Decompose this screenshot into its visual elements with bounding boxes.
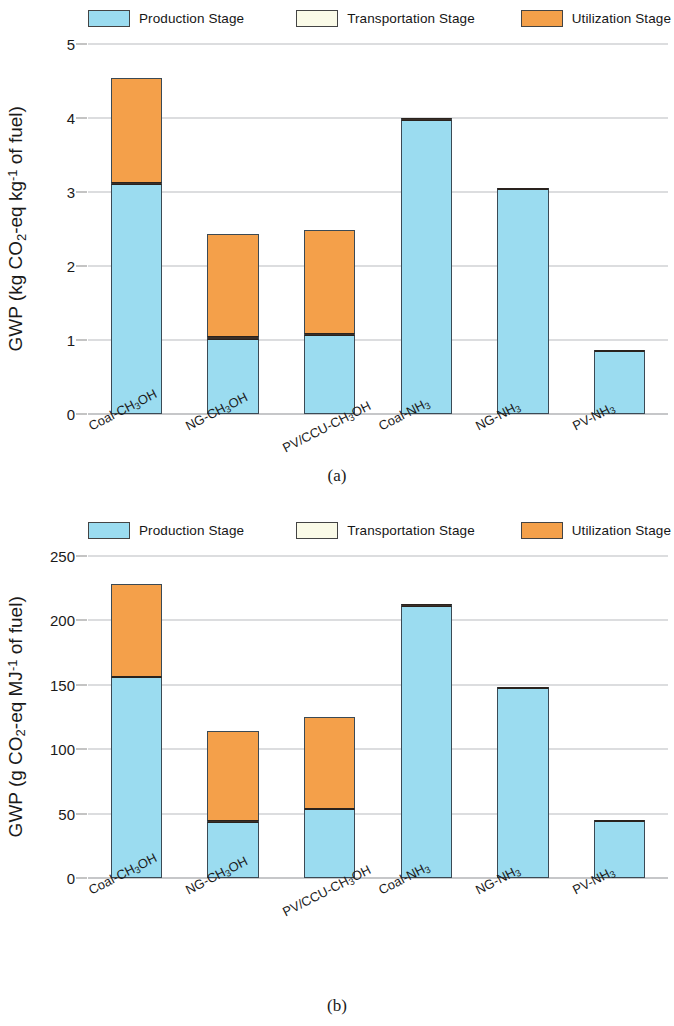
y-tick-label: 200	[50, 612, 75, 629]
bar-pv-ccu-ch3oh	[304, 718, 355, 878]
bar-segment-transportation	[111, 676, 162, 679]
y-tick-label: 0	[67, 870, 75, 887]
bar-coal-ch3oh	[111, 584, 162, 878]
y-tick-mark	[76, 684, 87, 685]
bar-segment-transportation	[594, 820, 645, 822]
bar-ng-ch3oh	[207, 731, 258, 878]
legend-swatch-production-a	[88, 10, 130, 27]
legend-b: Production Stage Transportation Stage Ut…	[0, 518, 674, 542]
y-tick-label: 3	[67, 184, 75, 201]
y-tick-label: 100	[50, 741, 75, 758]
bar-ng-nh3	[497, 687, 548, 878]
y-tick-mark	[76, 266, 87, 267]
bar-segment-transportation	[207, 336, 258, 340]
caption-b: (b)	[0, 996, 674, 1016]
y-tick-label: 0	[67, 406, 75, 423]
legend-a: Production Stage Transportation Stage Ut…	[0, 6, 674, 30]
gridline	[88, 620, 668, 621]
bar-segment-transportation	[497, 188, 548, 190]
bar-segment-transportation	[111, 182, 162, 185]
y-tick-label: 50	[58, 805, 75, 822]
plot-area-a: GWP (kg CO2-eq kg-1 of fuel) 012345	[0, 44, 674, 414]
gridline	[88, 749, 668, 750]
bar-coal-nh3	[401, 604, 452, 878]
legend-label-utilization-a: Utilization Stage	[572, 11, 671, 26]
bar-segment-utilization	[207, 234, 258, 336]
gridline	[88, 556, 668, 557]
gridline	[88, 340, 668, 341]
bar-segment-production	[401, 121, 452, 414]
bar-ng-nh3	[497, 188, 548, 414]
bar-segment-production	[497, 689, 548, 878]
y-tick-mark	[76, 620, 87, 621]
y-tick-label: 2	[67, 258, 75, 275]
bar-segment-production	[497, 190, 548, 414]
bar-segment-production	[111, 678, 162, 878]
y-tick-label: 250	[50, 548, 75, 565]
y-tick-mark	[76, 556, 87, 557]
chart-panel-b: Production Stage Transportation Stage Ut…	[0, 512, 674, 1026]
y-tick-mark	[76, 118, 87, 119]
y-tick-mark	[76, 340, 87, 341]
legend-label-transportation-b: Transportation Stage	[347, 523, 475, 538]
bar-segment-transportation	[207, 820, 258, 823]
gridline	[88, 192, 668, 193]
y-tick-mark	[76, 749, 87, 750]
figure-root: Production Stage Transportation Stage Ut…	[0, 0, 674, 1026]
y-tick-label: 5	[67, 36, 75, 53]
y-tick-mark	[76, 44, 87, 45]
plot-area-b: GWP (g CO2-eq MJ-1 of fuel) 050100150200…	[0, 556, 674, 878]
legend-item-utilization-b: Utilization Stage	[521, 522, 671, 539]
y-tick-mark	[76, 813, 87, 814]
bar-segment-transportation	[304, 333, 355, 335]
legend-label-transportation-a: Transportation Stage	[347, 11, 475, 26]
y-tick-mark	[76, 192, 87, 193]
legend-item-production-b: Production Stage	[88, 522, 244, 539]
y-axis-label-a: GWP (kg CO2-eq kg-1 of fuel)	[0, 44, 34, 414]
gridline	[88, 44, 668, 45]
caption-a: (a)	[0, 466, 674, 486]
bar-segment-utilization	[207, 731, 258, 821]
bar-segment-transportation	[401, 604, 452, 607]
bar-ng-ch3oh	[207, 234, 258, 414]
bar-segment-utilization	[111, 584, 162, 675]
legend-label-utilization-b: Utilization Stage	[572, 523, 671, 538]
bar-pv-ccu-ch3oh	[304, 230, 355, 414]
bar-segment-utilization	[304, 717, 355, 807]
y-tick-mark	[76, 878, 87, 879]
gridline	[88, 266, 668, 267]
axis-area-a: 012345	[88, 44, 668, 414]
y-tick-label: 1	[67, 332, 75, 349]
gridline	[88, 684, 668, 685]
bar-segment-transportation	[304, 808, 355, 810]
bar-coal-ch3oh	[111, 78, 162, 414]
gridline	[88, 118, 668, 119]
bar-segment-utilization	[304, 230, 355, 334]
legend-swatch-production-b	[88, 522, 130, 539]
chart-panel-a: Production Stage Transportation Stage Ut…	[0, 0, 674, 505]
y-tick-label: 150	[50, 676, 75, 693]
legend-label-production-a: Production Stage	[139, 11, 244, 26]
gridline	[88, 813, 668, 814]
y-tick-label: 4	[67, 110, 75, 127]
bar-segment-production	[304, 336, 355, 414]
axis-area-b: 050100150200250	[88, 556, 668, 878]
legend-label-production-b: Production Stage	[139, 523, 244, 538]
bar-segment-transportation	[401, 118, 452, 121]
legend-item-transportation-b: Transportation Stage	[296, 522, 475, 539]
legend-item-transportation-a: Transportation Stage	[296, 10, 475, 27]
bar-segment-transportation	[594, 350, 645, 352]
bar-segment-production	[111, 185, 162, 414]
y-axis-label-b: GWP (g CO2-eq MJ-1 of fuel)	[0, 556, 34, 878]
bar-segment-transportation	[497, 687, 548, 689]
x-axis-labels-b: Coal-CH3OHNG-CH3OHPV/CCU-CH3OHCoal-NH3NG…	[88, 882, 668, 946]
bar-segment-production	[401, 607, 452, 878]
legend-swatch-utilization-a	[521, 10, 563, 27]
legend-swatch-utilization-b	[521, 522, 563, 539]
legend-swatch-transportation-b	[296, 522, 338, 539]
legend-swatch-transportation-a	[296, 10, 338, 27]
bar-segment-production	[304, 810, 355, 878]
bar-segment-utilization	[111, 78, 162, 182]
legend-item-production-a: Production Stage	[88, 10, 244, 27]
bar-coal-nh3	[401, 118, 452, 414]
